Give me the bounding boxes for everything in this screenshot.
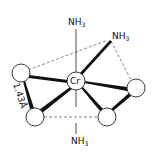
atom-lower-right — [98, 108, 116, 126]
molecule-svg: Cr NH3 NH3 NH3 1.43Å — [0, 0, 156, 155]
coordination-complex-diagram: Cr NH3 NH3 NH3 1.43Å — [0, 0, 156, 155]
wedge-bond-cr-left — [29, 75, 68, 83]
nh3-upper-right-label: NH3 — [112, 31, 130, 42]
wedge-bond-cr-lowerleft — [39, 87, 72, 113]
nh3-top-label: NH3 — [68, 17, 86, 28]
wedge-bond-cr-right — [84, 81, 127, 91]
wedge-bond-cr-nh3 — [80, 40, 112, 75]
dashed-edge-left-nh3 — [28, 40, 108, 70]
wedge-bond-cr-lowerright — [81, 87, 103, 111]
cr-label: Cr — [70, 76, 80, 86]
wedge-bond-right-lowerright — [111, 93, 131, 111]
dashed-edge-nh3-right — [111, 41, 131, 80]
nh3-bottom-label: NH3 — [71, 136, 89, 147]
atom-lower-left — [26, 108, 44, 126]
atom-left — [12, 64, 30, 82]
atom-right — [127, 79, 145, 97]
